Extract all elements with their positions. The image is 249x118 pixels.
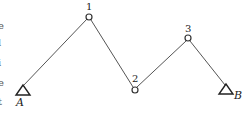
support-A-triangle-icon bbox=[16, 85, 30, 95]
member-2-3 bbox=[137, 41, 186, 87]
truss-diagram: e l i e t 1 2 3 A B bbox=[0, 0, 249, 118]
support-A-label: A bbox=[15, 96, 24, 109]
members bbox=[23, 19, 225, 87]
text-fragment: l bbox=[0, 37, 1, 48]
left-text-fragments: e l i e t bbox=[0, 20, 4, 107]
node-2-label: 2 bbox=[132, 73, 138, 84]
nodes bbox=[86, 14, 191, 93]
text-fragment: e bbox=[0, 20, 4, 31]
support-B-triangle-icon bbox=[219, 84, 233, 94]
support-B-label: B bbox=[233, 89, 242, 102]
node-3-circle bbox=[185, 35, 191, 41]
node-2-circle bbox=[132, 87, 138, 93]
node-1-circle bbox=[86, 14, 92, 20]
member-3-B bbox=[190, 41, 225, 85]
text-fragment: e bbox=[0, 77, 4, 88]
supports bbox=[16, 84, 233, 95]
member-1-2 bbox=[91, 20, 133, 87]
node-3-label: 3 bbox=[185, 23, 191, 34]
node-1-label: 1 bbox=[86, 1, 92, 12]
text-fragment: i bbox=[0, 57, 1, 68]
text-fragment: t bbox=[0, 96, 2, 107]
member-A-1 bbox=[23, 19, 87, 86]
